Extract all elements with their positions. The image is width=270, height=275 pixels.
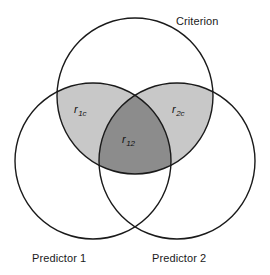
label-predictor-1: Predictor 1 [32,252,86,264]
label-r1c: r1c [74,103,86,115]
label-predictor-2: Predictor 2 [152,252,206,264]
label-r12-subscript: 12 [126,139,135,148]
label-criterion: Criterion [176,15,218,27]
venn-diagram-figure: Criterion Predictor 1 Predictor 2 r1c r2… [0,0,270,275]
venn-diagram-canvas [0,0,270,275]
label-r1c-subscript: 1c [78,109,86,118]
label-r12: r12 [122,133,135,145]
label-r2c-subscript: 2c [176,109,184,118]
label-r2c: r2c [172,103,184,115]
